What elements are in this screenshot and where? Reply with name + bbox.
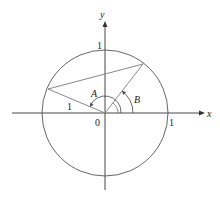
segment-length-label: 1 (67, 101, 72, 112)
unit-circle-diagram: y x 1 1 0 A B 1 (0, 0, 220, 197)
x-tick-label: 1 (169, 117, 174, 128)
x-axis-label: x (206, 108, 212, 119)
angle-a-label: A (90, 88, 98, 99)
chord-segment (48, 64, 143, 89)
angle-b-label: B (134, 94, 140, 105)
y-axis-arrow-icon (103, 21, 108, 27)
y-axis-label: y (99, 9, 105, 20)
radius-b (105, 64, 143, 113)
y-tick-label: 1 (97, 40, 102, 51)
angle-b-inner-arc (113, 103, 118, 113)
origin-label: 0 (95, 117, 100, 128)
x-axis-arrow-icon (199, 111, 205, 116)
